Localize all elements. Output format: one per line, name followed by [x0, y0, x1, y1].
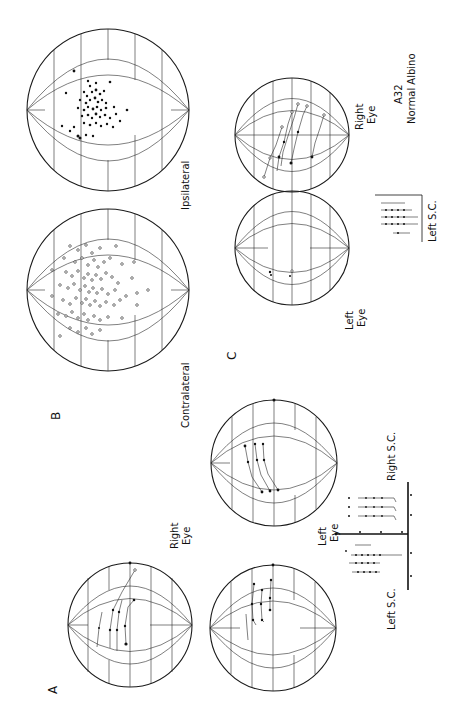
- panel-letter-c: C: [225, 352, 239, 360]
- a-left-eye-label-line1: Left: [317, 527, 328, 546]
- figure-canvas: Ipsilateral Contralateral B Right Eye: [0, 0, 465, 709]
- panel-b-ipsilateral-sphere: [27, 29, 189, 191]
- ipsilateral-points: [61, 70, 129, 140]
- panel-c-right-eye-sphere: [235, 78, 349, 192]
- c-left-eye-label-line1: Left: [344, 311, 355, 330]
- a-right-eye-label-line2: Eye: [181, 527, 192, 545]
- a-left-eye-label-line2: Eye: [329, 524, 340, 542]
- label-ipsilateral: Ipsilateral: [180, 161, 191, 210]
- panel-letter-b: B: [49, 412, 63, 420]
- panel-a-right-eye-sphere: [68, 562, 192, 687]
- a-right-eye-label-line1: Right: [169, 523, 180, 549]
- c-right-eye-label-line2: Eye: [366, 106, 377, 124]
- specimen-description: Normal Albino: [406, 53, 417, 124]
- panel-letter-a: A: [46, 685, 60, 694]
- c-left-sc-label: Left S.C.: [427, 200, 438, 242]
- c-left-sc-schematic: [375, 195, 422, 242]
- label-contralateral: Contralateral: [180, 362, 191, 428]
- contralateral-points: [51, 244, 150, 338]
- c-right-eye-label-line1: Right: [354, 104, 365, 130]
- panel-b-contralateral-sphere: [27, 209, 189, 371]
- a-right-sc-label: Right S.C.: [386, 432, 397, 481]
- panel-a-left-sc-sphere: [210, 564, 336, 691]
- panel-a-right-sc-sphere: [211, 399, 337, 527]
- c-left-eye-label-line2: Eye: [356, 309, 367, 327]
- a-left-sc-label: Left S.C.: [386, 588, 397, 630]
- a-sc-schematic: [335, 482, 412, 590]
- specimen-id: A32: [393, 84, 404, 104]
- panel-c-left-eye-sphere: [235, 191, 349, 305]
